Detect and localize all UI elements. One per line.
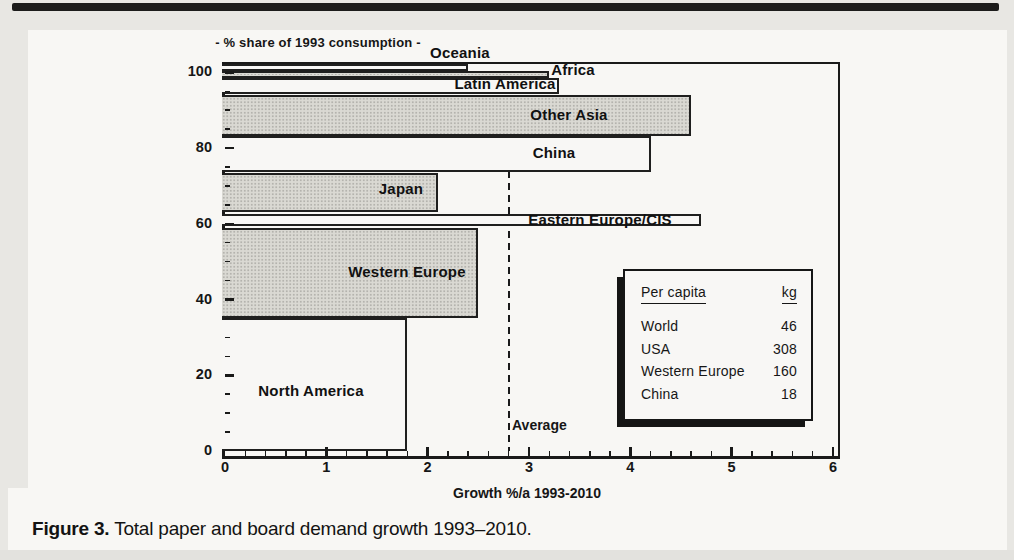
y-minor-tick [225,91,230,93]
per-capita-region: World [641,315,678,338]
x-minor-tick [549,451,551,456]
y-minor-tick [225,166,230,168]
per-capita-row-china: China18 [641,383,797,406]
y-minor-tick [225,337,230,339]
per-capita-region: China [641,383,679,406]
y-minor-tick [225,128,230,130]
y-minor-tick [225,431,230,433]
x-minor-tick [305,451,307,456]
y-tick-label-80: 80 [168,139,212,155]
per-capita-row-western-europe: Western Europe160 [641,360,797,383]
x-minor-tick [751,451,753,456]
x-major-tick [629,447,632,456]
x-tick-label-3: 3 [525,459,533,475]
y-minor-tick [225,242,230,244]
y-major-tick [225,374,234,377]
y-major-tick [225,298,234,301]
figure-caption: Figure 3. Total paper and board demand g… [32,518,532,540]
y-minor-tick [225,261,230,263]
per-capita-value: 18 [781,383,797,406]
x-minor-tick [812,451,814,456]
x-minor-tick [447,451,449,456]
y-minor-tick [225,412,230,414]
per-capita-value: 308 [773,338,797,361]
bar-china [222,136,651,172]
x-minor-tick [670,451,672,456]
y-tick-label-20: 20 [168,366,212,382]
x-major-tick [832,447,835,456]
y-minor-tick [225,204,230,206]
chart-title: - % share of 1993 consumption - [215,35,421,50]
average-line [508,171,510,451]
y-major-tick [225,223,234,226]
average-label: Average [512,417,567,433]
x-minor-tick [589,451,591,456]
per-capita-value: 160 [773,360,797,383]
y-tick-label-60: 60 [168,215,212,231]
label-north-america: North America [258,382,363,399]
x-minor-tick [690,451,692,456]
x-minor-tick [508,451,510,456]
label-china: China [533,144,576,161]
x-minor-tick [366,451,368,456]
per-capita-body: World46USA308Western Europe160China18 [641,315,797,405]
label-africa: Africa [551,61,595,78]
per-capita-row-usa: USA308 [641,338,797,361]
x-tick-label-6: 6 [829,459,837,475]
caption-figure-number: Figure 3. [32,518,109,539]
per-capita-header-label: Per capita [641,283,706,304]
y-minor-tick [225,318,230,320]
label-oceania: Oceania [430,44,490,61]
x-major-tick [325,447,328,456]
per-capita-header: Per capitakg [641,283,797,304]
scan-bottom-edge [0,550,1014,560]
per-capita-table: Per capitakg World46USA308Western Europe… [623,269,813,421]
x-tick-label-5: 5 [728,459,736,475]
x-tick-label-1: 1 [322,459,330,475]
y-minor-tick [225,109,230,111]
x-minor-tick [792,451,794,456]
x-minor-tick [386,451,388,456]
x-minor-tick [488,451,490,456]
scan-top-edge-strip [12,3,999,11]
y-tick-label-40: 40 [168,291,212,307]
y-minor-tick [225,356,230,358]
x-minor-tick [609,451,611,456]
x-minor-tick [285,451,287,456]
x-minor-tick [245,451,247,456]
label-latin-america: Latin America [454,75,555,92]
per-capita-region: USA [641,338,670,361]
x-minor-tick [407,451,409,456]
x-tick-label-4: 4 [626,459,634,475]
label-western-europe: Western Europe [348,263,466,280]
x-tick-label-0: 0 [221,459,229,475]
x-tick-label-2: 2 [424,459,432,475]
x-minor-tick [467,451,469,456]
y-tick-label-0: 0 [168,442,212,458]
x-axis-label: Growth %/a 1993-2010 [453,485,601,501]
bar-other-asia [222,95,691,136]
x-minor-tick [711,451,713,456]
label-japan: Japan [379,180,423,197]
y-tick-label-100: 100 [168,63,212,79]
per-capita-row-world: World46 [641,315,797,338]
x-major-tick [730,447,733,456]
y-minor-tick [225,185,230,187]
x-major-tick [426,447,429,456]
per-capita-region: Western Europe [641,360,745,383]
x-minor-tick [265,451,267,456]
per-capita-value: 46 [781,315,797,338]
bar-oceania [222,64,468,71]
label-eastern-europe-cis: Eastern Europe/CIS [528,211,672,228]
caption-text: Total paper and board demand growth 1993… [109,518,531,539]
x-minor-tick [650,451,652,456]
x-major-tick [528,447,531,456]
per-capita-header-unit: kg [782,283,797,304]
label-other-asia: Other Asia [530,106,607,123]
y-major-tick [225,147,234,150]
x-minor-tick [771,451,773,456]
y-minor-tick [225,393,230,395]
y-major-tick [225,71,234,74]
x-minor-tick [569,451,571,456]
y-minor-tick [225,280,230,282]
